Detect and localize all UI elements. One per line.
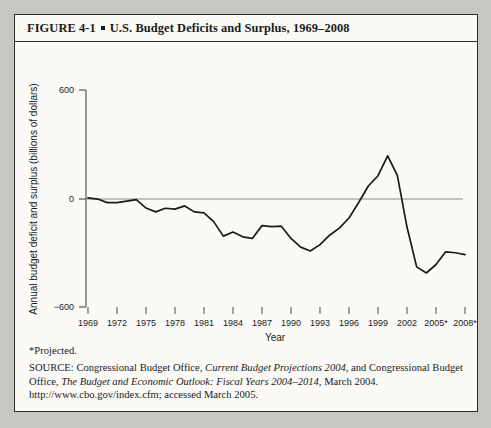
source-italic-title-1: Current Budget Projections 2004 (205, 362, 346, 373)
x-tick-label-2008: 2008* (453, 318, 477, 328)
source-prefix: SOURCE: Congressional Budget Office, (29, 362, 205, 373)
projected-note: *Projected. (29, 345, 465, 356)
budget-deficit-line-chart: 600 0 −600 (15, 42, 479, 343)
figure-title-text: U.S. Budget Deficits and Surplus, 1969–2… (110, 21, 350, 35)
x-tick-label-1984: 1984 (223, 318, 243, 328)
x-tick-label-1969: 1969 (78, 318, 98, 328)
x-tick-label-1981: 1981 (194, 318, 214, 328)
figure-title-bar: FIGURE 4-1U.S. Budget Deficits and Surpl… (15, 15, 477, 42)
x-tick-label-2005: 2005* (424, 318, 448, 328)
x-tick-label-1990: 1990 (281, 318, 301, 328)
figure-number: FIGURE 4-1 (27, 21, 96, 35)
x-tick-label-1972: 1972 (107, 318, 127, 328)
x-tick-label-1978: 1978 (165, 318, 185, 328)
x-axis-title: Year (265, 332, 286, 343)
figure-title: FIGURE 4-1U.S. Budget Deficits and Surpl… (15, 21, 350, 36)
y-tick-label-neg600: −600 (54, 302, 74, 312)
figure-bullet-icon (101, 26, 105, 30)
x-tick-label-1975: 1975 (136, 318, 156, 328)
budget-deficit-line (88, 156, 465, 273)
figure-box: FIGURE 4-1U.S. Budget Deficits and Surpl… (14, 14, 478, 412)
source-italic-title-2: The Budget and Economic Outlook: Fiscal … (61, 376, 319, 387)
y-tick-label-600: 600 (59, 85, 74, 95)
y-tick-label-0: 0 (69, 194, 74, 204)
x-tick-label-1993: 1993 (310, 318, 330, 328)
x-tick-label-2002: 2002 (397, 318, 417, 328)
x-tick-label-1996: 1996 (339, 318, 359, 328)
source-note: SOURCE: Congressional Budget Office, Cur… (29, 361, 465, 402)
x-tick-label-1987: 1987 (252, 318, 272, 328)
y-axis: 600 0 −600 (54, 85, 86, 312)
chart-plot-area: 600 0 −600 (15, 42, 479, 343)
x-tick-label-1999: 1999 (368, 318, 388, 328)
figure-footnotes: *Projected. SOURCE: Congressional Budget… (15, 345, 479, 402)
y-axis-title: Annual budget deficit and surplus (billi… (28, 83, 39, 314)
x-axis: 1969 1972 1975 1978 1981 1984 1987 1990 … (78, 307, 477, 328)
